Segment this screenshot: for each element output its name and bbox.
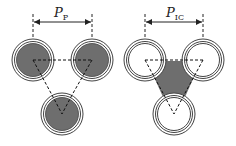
pitch-label-left: PP (54, 6, 68, 22)
right-panel-interstitial (124, 14, 224, 135)
pitch-label-right: PIC (166, 6, 184, 22)
left-panel-filled-cores (12, 14, 113, 135)
fiber-arrangement-diagram (0, 0, 236, 146)
